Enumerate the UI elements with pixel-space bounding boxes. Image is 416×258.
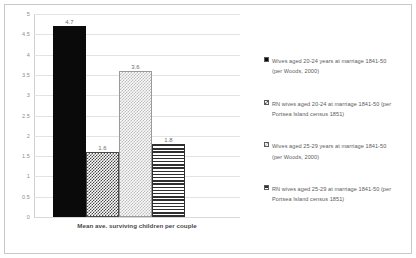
legend-item-label: Wives aged 20-24 years at marriage 1841-… xyxy=(272,56,386,77)
bar-slot: 4.7 xyxy=(53,14,86,217)
legend-item[interactable]: Wives aged 25-29 years at marriage 1841-… xyxy=(264,141,410,162)
legend-item-label: Wives aged 25-29 years at marriage 1841-… xyxy=(272,141,386,162)
bar-chart-figure: 54.543.532.521.510.50 4.71.63.61.8 Mean … xyxy=(0,0,416,258)
bar-slot: 3.6 xyxy=(119,14,152,217)
chart-legend: Wives aged 20-24 years at marriage 1841-… xyxy=(264,56,410,227)
bar[interactable]: 1.6 xyxy=(86,152,119,217)
y-axis-tick-label: 0 xyxy=(27,214,30,220)
y-axis-tick-label: 4.5 xyxy=(22,31,30,37)
bars-group: 4.71.63.61.8 xyxy=(35,14,240,217)
y-axis-tick-label: 1 xyxy=(27,173,30,179)
legend-swatch-icon xyxy=(264,57,269,62)
bar-value-label: 3.6 xyxy=(131,64,139,70)
legend-item[interactable]: RN wives aged 20-24 at marriage 1841-50 … xyxy=(264,99,410,120)
y-axis-tick-label: 4 xyxy=(27,52,30,58)
bar-value-label: 1.6 xyxy=(98,145,106,151)
legend-item[interactable]: RN wives aged 25-29 at marriage 1841-50 … xyxy=(264,184,410,205)
plot-area: 54.543.532.521.510.50 4.71.63.61.8 xyxy=(34,14,240,217)
bar-value-label: 1.8 xyxy=(164,137,172,143)
bar[interactable]: 4.7 xyxy=(53,26,86,217)
bar-slot: 1.6 xyxy=(86,14,119,217)
y-axis-tick-label: 0.5 xyxy=(22,194,30,200)
bar[interactable]: 1.8 xyxy=(152,144,185,217)
y-axis-tick-label: 1.5 xyxy=(22,153,30,159)
bar-value-label: 4.7 xyxy=(65,19,73,25)
legend-swatch-icon xyxy=(264,142,269,147)
x-axis-label: Mean ave. surviving children per couple xyxy=(34,222,240,229)
y-axis-tick-label: 3.5 xyxy=(22,72,30,78)
legend-item-label: RN wives aged 20-24 at marriage 1841-50 … xyxy=(272,99,391,120)
y-axis-tick-label: 2.5 xyxy=(22,113,30,119)
legend-item-label: RN wives aged 25-29 at marriage 1841-50 … xyxy=(272,184,391,205)
legend-swatch-icon xyxy=(264,185,269,190)
bar-slot: 1.8 xyxy=(152,14,185,217)
y-axis-tick-label: 2 xyxy=(27,133,30,139)
y-axis-tick-label: 5 xyxy=(27,11,30,17)
bar[interactable]: 3.6 xyxy=(119,71,152,217)
legend-item[interactable]: Wives aged 20-24 years at marriage 1841-… xyxy=(264,56,410,77)
legend-swatch-icon xyxy=(264,100,269,105)
y-axis-tick-label: 3 xyxy=(27,92,30,98)
gridline xyxy=(34,217,240,218)
